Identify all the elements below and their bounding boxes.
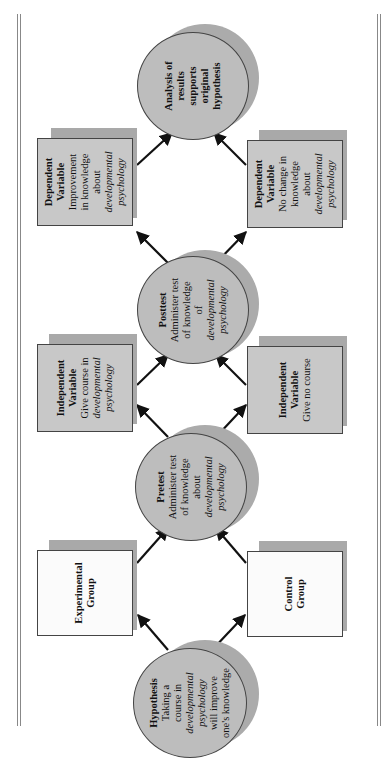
exp-group-text: Experimental Group [73,562,97,623]
pretest-line: of knowledge [179,455,191,519]
pretest-node: Pretest Administer test of knowledge abo… [135,425,261,543]
hypothesis-node: Hypothesis Taking a course in developmen… [133,640,261,760]
pretest-text: Pretest Administer test of knowledge abo… [155,455,227,519]
hypothesis-line: Taking a [160,668,172,738]
analysis-line: original [199,61,211,110]
dv-ctrl-line: No change in [277,153,289,214]
posttest-line: Administer test [169,278,181,342]
ctrl-group-face: Control Group [247,551,343,637]
hypothesis-line: course in [172,668,184,738]
dv-ctrl-face: Dependent Variable No change in knowledg… [247,140,343,228]
dv-ctrl-italic: developmental [313,153,325,214]
exp-group-title: Experimental [73,562,85,623]
analysis-circle: Analysis of results supports original hy… [137,32,249,140]
iv-exp-italic: developmental [91,357,103,418]
iv-exp-title: Variable [67,357,79,418]
pretest-italic: developmental [203,455,215,519]
posttest-circle: Posttest Administer test of knowledge of… [137,256,249,364]
dv-exp-title: Dependent [43,151,55,212]
dv-exp-line: Improvement [67,151,79,212]
dv-ctrl-text: Dependent Variable No change in knowledg… [253,153,337,214]
ctrl-group-text: Control Group [283,577,307,612]
dv-ctrl-title: Variable [265,153,277,214]
dv-exp-face: Dependent Variable Improvement in knowle… [37,138,133,226]
analysis-text: Analysis of results supports original hy… [163,61,223,110]
dv-exp-line: about [91,151,103,212]
hypothesis-title: Hypothesis [148,668,160,738]
analysis-node: Analysis of results supports original hy… [137,24,259,140]
dv-exp-title: Variable [55,151,67,212]
hypothesis-text: Hypothesis Taking a course in developmen… [148,668,232,738]
dependent-variable-experimental-box: Dependent Variable Improvement in knowle… [37,128,137,228]
pretest-circle: Pretest Administer test of knowledge abo… [135,433,247,541]
dv-exp-line: in knowledge [79,151,91,212]
posttest-line: of knowledge [181,278,193,342]
iv-ctrl-title: Independent [277,358,289,422]
dv-ctrl-title: Dependent [253,153,265,214]
posttest-text: Posttest Administer test of knowledge of… [157,278,229,342]
pretest-line: about [191,455,203,519]
pretest-italic: psychology [215,455,227,519]
iv-exp-face: Independent Variable Give course in deve… [37,344,133,432]
independent-variable-experimental-box: Independent Variable Give course in deve… [37,334,137,434]
ctrl-group-title: Control [283,577,295,612]
control-group-box: Control Group [247,541,347,639]
posttest-node: Posttest Administer test of knowledge of… [137,250,261,366]
ctrl-group-title: Group [295,577,307,612]
iv-exp-italic: psychology [103,357,115,418]
exp-group-title: Group [85,562,97,623]
posttest-italic: psychology [217,278,229,342]
experimental-group-box: Experimental Group [37,540,137,638]
pretest-title: Pretest [155,455,167,519]
iv-exp-line: Give course in [79,357,91,418]
analysis-line: hypothesis [211,61,223,110]
dv-ctrl-line: knowledge [289,153,301,214]
pretest-line: Administer test [167,455,179,519]
analysis-line: results [175,61,187,110]
iv-ctrl-title: Variable [289,358,301,422]
iv-exp-text: Independent Variable Give course in deve… [55,357,115,418]
iv-ctrl-text: Independent Variable Give no course [277,358,313,422]
exp-group-face: Experimental Group [37,550,133,636]
iv-ctrl-line: Give no course [301,358,313,422]
hypothesis-line: one's knowledge [220,668,232,738]
iv-ctrl-face: Independent Variable Give no course [247,346,343,434]
dv-exp-italic: developmental [103,151,115,212]
dependent-variable-control-box: Dependent Variable No change in knowledg… [247,130,347,230]
analysis-line: Analysis of [163,61,175,110]
posttest-italic: developmental [205,278,217,342]
dv-ctrl-line: about [301,153,313,214]
independent-variable-control-box: Independent Variable Give no course [247,336,347,436]
hypothesis-italic: developmental [184,668,196,738]
iv-exp-title: Independent [55,357,67,418]
dv-exp-text: Dependent Variable Improvement in knowle… [43,151,127,212]
hypothesis-italic: psychology [196,668,208,738]
posttest-title: Posttest [157,278,169,342]
hypothesis-line: will improve [208,668,220,738]
dv-ctrl-italic: psychology [325,153,337,214]
posttest-line: of [193,278,205,342]
analysis-line: supports [187,61,199,110]
dv-exp-italic: psychology [115,151,127,212]
hypothesis-circle: Hypothesis Taking a course in developmen… [133,648,247,758]
